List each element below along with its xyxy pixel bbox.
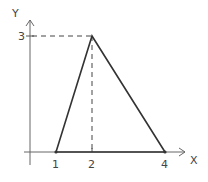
y-axis-label: Y: [12, 8, 19, 19]
point-1-0: [54, 150, 57, 153]
y-tick-label-3: 3: [18, 31, 25, 42]
point-4-0: [163, 150, 166, 153]
x-tick-label-1: 1: [52, 159, 59, 170]
chart-canvas: [0, 0, 208, 182]
series-triangle: [56, 36, 165, 152]
x-axis-label: X: [190, 155, 198, 166]
x-tick-label-2: 2: [88, 159, 95, 170]
x-tick-label-4: 4: [161, 159, 168, 170]
